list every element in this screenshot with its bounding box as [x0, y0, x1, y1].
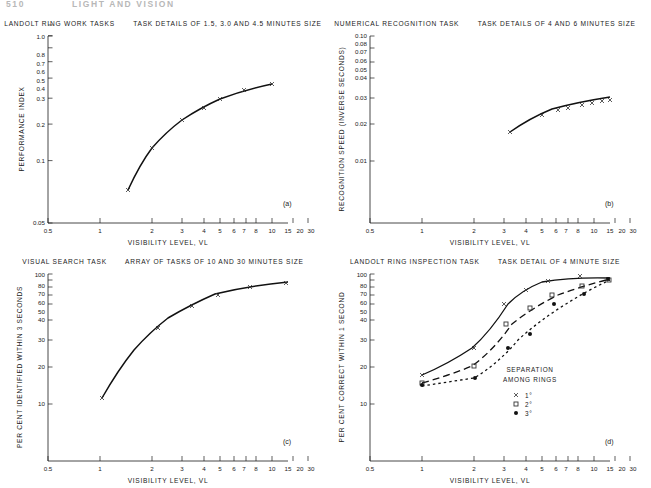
panel-a-y-ticklabels: 0.05 0.1 0.2 0.3 0.4 0.5 0.6 0.7 0.8 1.0: [33, 33, 46, 226]
panel-a-datapoints: [126, 82, 274, 192]
svg-text:8: 8: [576, 465, 580, 472]
svg-text:0.5: 0.5: [36, 77, 45, 84]
svg-text:4: 4: [202, 227, 206, 234]
svg-text:2: 2: [472, 227, 476, 234]
svg-text:20: 20: [297, 227, 304, 234]
panel-b-y-axis-label: RECOGNITION SPEED (INVERSE SECONDS): [338, 47, 346, 212]
panel-b-axis-lines: [370, 36, 610, 223]
svg-text:10: 10: [38, 400, 45, 407]
svg-text:6: 6: [232, 465, 236, 472]
svg-text:30: 30: [360, 336, 367, 343]
svg-text:7: 7: [564, 465, 568, 472]
legend-label-1deg: 1°: [525, 392, 533, 399]
svg-text:10: 10: [269, 465, 276, 472]
svg-text:0.03: 0.03: [355, 94, 368, 101]
svg-text:0.1: 0.1: [36, 157, 45, 164]
svg-text:6: 6: [554, 465, 558, 472]
svg-text:30: 30: [308, 227, 315, 234]
panel-c-x-ticks: [48, 456, 308, 461]
panel-b-datapoints: [508, 98, 612, 134]
panel-a-y-axis-label: PERFORMANCE INDEX: [18, 86, 25, 171]
svg-text:70: 70: [360, 290, 367, 297]
panel-a-axis-lines: [48, 36, 288, 223]
panel-d-y-ticks: [370, 274, 375, 404]
svg-text:10: 10: [269, 227, 276, 234]
svg-text:10: 10: [360, 400, 367, 407]
svg-text:0.01: 0.01: [355, 157, 368, 164]
svg-text:30: 30: [630, 465, 637, 472]
svg-text:70: 70: [38, 290, 45, 297]
page-running-header: 510 LIGHT AND VISION: [0, 0, 651, 12]
svg-text:0.05: 0.05: [33, 219, 46, 226]
legend-label-3deg: 3°: [525, 410, 533, 417]
svg-text:5: 5: [218, 465, 222, 472]
panel-d-curve-1deg: [422, 278, 610, 375]
legend-x-marker-icon: [514, 393, 518, 397]
svg-text:7: 7: [564, 227, 568, 234]
legend-entry-3deg: 3°: [514, 410, 533, 417]
svg-text:4: 4: [524, 227, 528, 234]
svg-text:8: 8: [254, 465, 258, 472]
svg-text:0.5: 0.5: [366, 465, 375, 472]
svg-text:0.08: 0.08: [355, 40, 368, 47]
panel-b-y-ticklabels: 0.01 0.02 0.03 0.04 0.05 0.06 0.07 0.08 …: [355, 32, 368, 164]
svg-text:0.04: 0.04: [355, 74, 368, 81]
svg-text:20: 20: [297, 465, 304, 472]
panel-d-legend: SEPARATION AMONG RINGS 1° 2° 3°: [503, 366, 557, 417]
svg-text:2: 2: [150, 227, 154, 234]
svg-text:0.5: 0.5: [44, 465, 53, 472]
svg-text:0.6: 0.6: [36, 68, 45, 75]
panel-c-axis-lines: [48, 274, 288, 461]
svg-text:80: 80: [38, 282, 45, 289]
panel-c: VISUAL SEARCH TASK ARRAY OF TASKS OF 10 …: [0, 252, 326, 488]
svg-text:3: 3: [502, 465, 506, 472]
svg-text:7: 7: [242, 465, 246, 472]
svg-text:6: 6: [232, 227, 236, 234]
legend-title-line2: AMONG RINGS: [503, 376, 557, 383]
panel-a-x-axis-label: VISIBILITY LEVEL, VL: [128, 239, 209, 246]
panel-d-y-axis-label: PER CENT CORRECT WITHIN 1 SECOND: [338, 292, 345, 443]
svg-text:8: 8: [254, 227, 258, 234]
svg-text:4: 4: [524, 465, 528, 472]
panel-a-y-ticks: [48, 25, 53, 223]
svg-text:15: 15: [285, 227, 292, 234]
svg-text:15: 15: [607, 465, 614, 472]
svg-text:15: 15: [607, 227, 614, 234]
svg-text:0.2: 0.2: [36, 121, 45, 128]
svg-text:0.10: 0.10: [355, 32, 368, 39]
panel-c-y-ticklabels: 10 20 30 40 50 60 70 80 100: [35, 271, 46, 407]
panel-d: LANDOLT RING INSPECTION TASK TASK DETAIL…: [322, 252, 648, 488]
panel-d-label: (d): [605, 438, 614, 446]
svg-text:3: 3: [502, 227, 506, 234]
svg-text:0.06: 0.06: [355, 57, 368, 64]
legend-entry-1deg: 1°: [514, 392, 533, 399]
svg-text:0.5: 0.5: [366, 227, 375, 234]
svg-text:0.3: 0.3: [36, 95, 45, 102]
panel-b-curve: [510, 97, 610, 132]
svg-text:0.4: 0.4: [36, 85, 45, 92]
svg-text:60: 60: [38, 299, 45, 306]
panel-a-label: (a): [283, 200, 292, 208]
svg-text:100: 100: [357, 271, 368, 278]
svg-text:40: 40: [360, 316, 367, 323]
panel-b-y-ticks: [370, 36, 375, 161]
panel-b-x-ticks: [370, 218, 630, 223]
panel-b-plot: 0.01 0.02 0.03 0.04 0.05 0.06 0.07 0.08 …: [322, 14, 648, 255]
panel-b-x-ticklabels: 0.5 1 2 3 4 5 6 7 8 10 15 20 30: [366, 227, 637, 234]
svg-text:0.7: 0.7: [36, 60, 45, 67]
panel-d-x-ticks: [370, 456, 630, 461]
svg-text:0.07: 0.07: [355, 48, 368, 55]
panel-c-y-axis-label: PER CENT IDENTIFIED WITHIN 3 SECONDS: [16, 286, 23, 448]
legend-square-marker-icon: [514, 402, 518, 406]
panel-d-y-ticklabels: 10 20 30 40 50 60 70 80 100: [357, 271, 368, 407]
svg-text:7: 7: [242, 227, 246, 234]
svg-text:1: 1: [420, 465, 424, 472]
panel-d-x-axis-label: VISIBILITY LEVEL, VL: [450, 477, 531, 484]
svg-text:10: 10: [591, 465, 598, 472]
svg-text:30: 30: [38, 336, 45, 343]
svg-text:5: 5: [540, 465, 544, 472]
panel-a-curve: [128, 84, 272, 190]
svg-text:5: 5: [540, 227, 544, 234]
svg-text:5: 5: [218, 227, 222, 234]
svg-text:8: 8: [576, 227, 580, 234]
